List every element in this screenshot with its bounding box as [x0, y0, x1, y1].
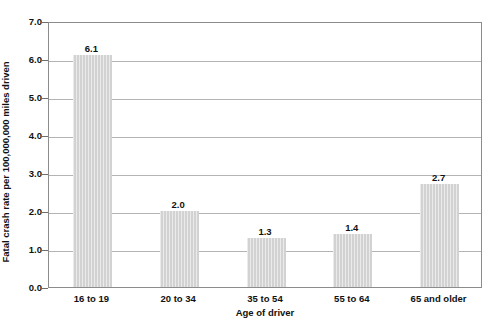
y-tick-label-4-0: 4.0: [2, 131, 42, 141]
x-tick-label-55-to-64: 55 to 64: [307, 293, 397, 304]
y-axis-title: Fatal crash rate per 100,000,000 miles d…: [0, 29, 14, 295]
y-tick-label-6-0: 6.0: [2, 55, 42, 65]
y-tick-label-5-0: 5.0: [2, 93, 42, 103]
bar-value-label: 1.4: [322, 222, 382, 233]
bar: [247, 238, 286, 287]
bar-chart-figure: Fatal crash rate per 100,000,000 miles d…: [0, 0, 494, 322]
gridline: [49, 213, 481, 214]
plot-area: [48, 22, 482, 288]
x-tick-label-35-to-54: 35 to 54: [220, 293, 310, 304]
bar-value-label: 6.1: [61, 43, 121, 54]
x-tick-label-65-and-older: 65 and older: [394, 293, 484, 304]
bar: [333, 234, 372, 287]
bar-value-label: 2.0: [148, 199, 208, 210]
gridline: [49, 61, 481, 62]
x-tick-label-16-to-19: 16 to 19: [46, 293, 136, 304]
gridline: [49, 137, 481, 138]
y-tick-label-1-0: 1.0: [2, 245, 42, 255]
bar: [420, 184, 459, 287]
clipped-header-text: [300, 0, 470, 4]
bar: [160, 211, 199, 287]
bar-value-label: 2.7: [409, 172, 469, 183]
y-tick-label-2-0: 2.0: [2, 207, 42, 217]
bar: [73, 55, 112, 287]
x-axis-title: Age of driver: [48, 307, 482, 318]
y-tick-label-3-0: 3.0: [2, 169, 42, 179]
x-tick-label-20-to-34: 20 to 34: [133, 293, 223, 304]
gridline: [49, 99, 481, 100]
bar-value-label: 1.3: [235, 226, 295, 237]
y-tick-label-7-0: 7.0: [2, 17, 42, 27]
y-tick-label-0-0: 0.0: [2, 283, 42, 293]
y-tick-mark: [42, 288, 48, 289]
